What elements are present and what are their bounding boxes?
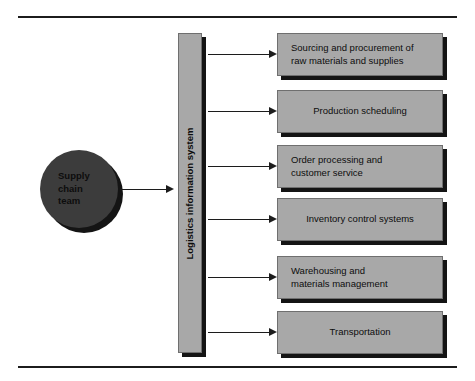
arrow-head [269,107,277,115]
output-box-1-label: Sourcing and procurement of raw material… [278,42,420,68]
output-box-3-line-1: Order processing and [291,154,382,167]
arrow-shaft [208,54,269,55]
output-box-1-line-2: raw materials and supplies [291,55,414,68]
supply-chain-team-node: Supply chain team [40,150,118,228]
arrow-hub-to-output-2 [208,107,277,116]
output-box-6: Transportation [277,311,443,354]
supply-chain-team-label: Supply chain team [58,170,104,208]
output-box-2-line-1: Production scheduling [284,105,436,118]
logistics-information-system-bar: Logistics information system [178,33,202,353]
output-box-5: Warehousing and materials management [277,256,443,299]
logistics-information-system-label: Logistics information system [185,127,196,259]
output-box-1: Sourcing and procurement of raw material… [277,33,443,76]
output-box-6-label: Transportation [278,326,442,339]
arrow-shaft [208,332,269,333]
output-box-3: Order processing and customer service [277,145,443,188]
output-box-1-line-1: Sourcing and procurement of [291,42,414,55]
arrow-head [269,215,277,223]
arrow-head [269,273,277,281]
arrow-shaft [208,277,269,278]
output-box-5-line-2: materials management [291,278,388,291]
arrow-hub-to-output-6 [208,328,277,337]
output-box-3-line-2: customer service [291,167,382,180]
output-box-3-label: Order processing and customer service [278,154,388,180]
arrow-head [269,162,277,170]
arrow-hub-to-output-1 [208,50,277,59]
output-box-6-line-1: Transportation [284,326,436,339]
output-box-4-line-1: Inventory control systems [284,213,436,226]
output-box-5-line-1: Warehousing and [291,265,388,278]
output-box-5-label: Warehousing and materials management [278,265,394,291]
supply-chain-team-line-1: Supply [58,170,104,183]
output-box-4-label: Inventory control systems [278,213,442,226]
bottom-divider-rule [18,366,457,368]
arrow-head [269,328,277,336]
output-box-4: Inventory control systems [277,198,443,241]
supply-chain-information-flow-diagram: Supply chain team Logistics information … [0,0,475,381]
arrow-shaft [120,189,166,190]
arrow-shaft [208,219,269,220]
supply-chain-team-line-2: chain [58,183,104,196]
supply-chain-team-line-3: team [58,195,104,208]
arrow-hub-to-output-3 [208,162,277,171]
arrow-hub-to-output-5 [208,273,277,282]
arrow-team-to-hub [120,185,174,194]
arrow-head [269,50,277,58]
output-box-2: Production scheduling [277,90,443,133]
top-divider-rule [18,16,457,18]
arrow-shaft [208,166,269,167]
output-box-2-label: Production scheduling [278,105,442,118]
arrow-head [166,185,174,193]
arrow-hub-to-output-4 [208,215,277,224]
arrow-shaft [208,111,269,112]
